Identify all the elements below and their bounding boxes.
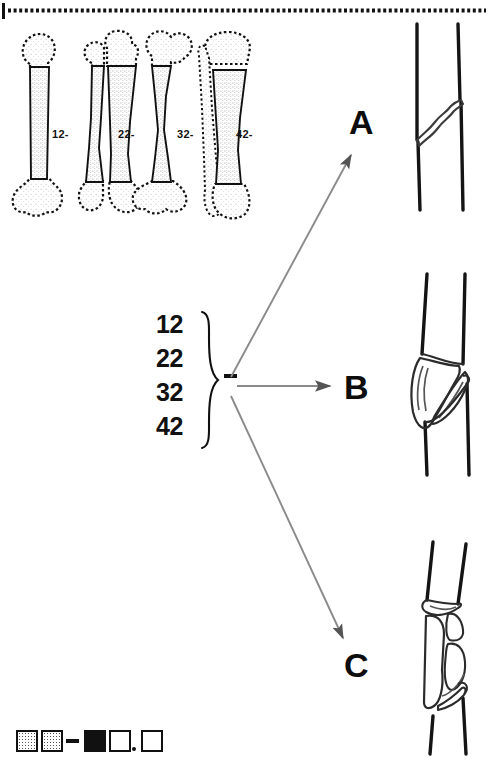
bone-32-femur: [133, 31, 192, 213]
fracture-pattern-c: [400, 538, 486, 758]
left-margin-tick: [2, 3, 5, 19]
type-letter-c: C: [344, 648, 369, 682]
figure-canvas: 12- 22- 32- 42- 12 22 32 42 A B C: [0, 0, 490, 768]
fracture-pattern-a: [405, 22, 485, 212]
legend-separator-dash: [66, 739, 79, 743]
bone-label-12: 12-: [52, 128, 69, 140]
arrow-to-c: [231, 396, 343, 638]
bone-label-32: 32-: [177, 128, 194, 140]
legend-segment-digit-box: [41, 730, 63, 752]
legend-group-digit-box: [109, 730, 131, 752]
code-12: 12: [156, 312, 183, 337]
legend-decimal-dot: [132, 747, 136, 751]
type-letter-b: B: [344, 370, 369, 404]
bone-label-22: 22-: [118, 128, 135, 140]
code-22: 22: [156, 346, 183, 371]
bone-12-humerus: [13, 34, 62, 216]
fracture-pattern-b: [403, 272, 487, 477]
legend-subgroup-digit-box: [141, 730, 163, 752]
code-42: 42: [156, 414, 183, 439]
arrow-to-a: [231, 155, 351, 377]
legend-type-letter-box: [84, 730, 106, 752]
type-letter-a: A: [349, 105, 374, 139]
code-32: 32: [156, 380, 183, 405]
top-dotted-rule: [8, 8, 486, 13]
legend-bone-digit-box: [16, 730, 38, 752]
bone-22-radius-ulna: [79, 31, 141, 212]
coding-key-legend: [16, 730, 186, 756]
